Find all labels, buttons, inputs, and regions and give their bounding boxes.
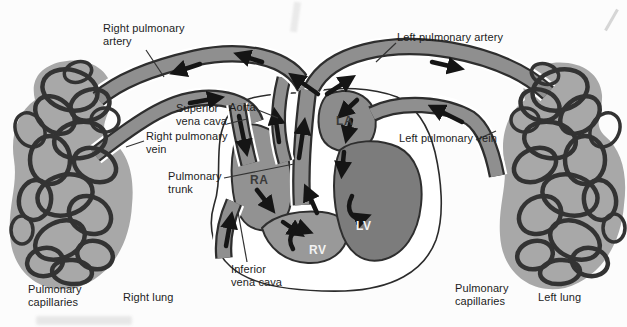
label-right-pulmonary-artery: Right pulmonary artery: [103, 22, 195, 47]
label-aorta: Aorta: [229, 101, 269, 114]
left-ventricle-shape: [334, 141, 422, 261]
label-right-atrium: RA: [250, 174, 269, 186]
label-left-pulmonary-vein: Left pulmonary vein: [399, 132, 499, 145]
label-pulmonary-capillaries-right: Pulmonary capillaries: [455, 282, 531, 307]
label-inferior-vena-cava: Inferior vena cava: [231, 263, 293, 288]
label-pulmonary-capillaries-left: Pulmonary capillaries: [28, 283, 104, 308]
label-left-ventricle: LV: [356, 220, 372, 232]
label-pulmonary-trunk: Pulmonary trunk: [168, 170, 238, 195]
label-left-lung: Left lung: [538, 291, 608, 304]
label-left-pulmonary-artery: Left pulmonary artery: [397, 31, 537, 44]
pulmonary-circulation-figure: Right pulmonary artery Left pulmonary ar…: [0, 0, 627, 327]
label-left-atrium: LA: [336, 115, 353, 127]
label-right-ventricle: RV: [309, 244, 327, 256]
aorta-vessel: [278, 78, 285, 162]
label-superior-vena-cava: Superior vena cava: [176, 102, 234, 127]
figure-artwork: [0, 0, 627, 327]
label-right-pulmonary-vein: Right pulmonary vein: [146, 130, 246, 155]
label-right-lung: Right lung: [123, 291, 193, 304]
left-pulmonary-artery-vessel: [312, 47, 548, 93]
